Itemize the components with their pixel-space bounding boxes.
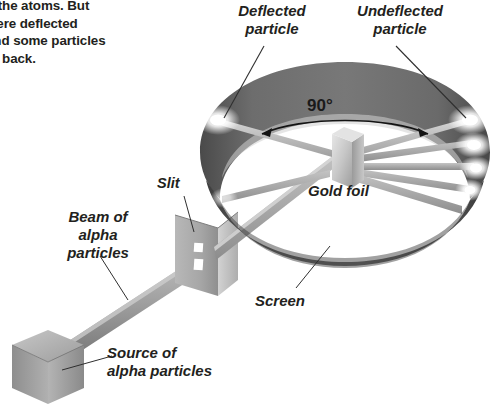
- beam-slit-to-foil: [214, 152, 343, 260]
- body-text: g the atoms. But were deflected and some…: [0, 0, 196, 67]
- label-source-of-alpha-particles: Source of alpha particles: [107, 344, 267, 380]
- label-screen: Screen: [255, 292, 345, 310]
- leader-beam: [100, 256, 128, 300]
- leader-screen: [296, 246, 330, 288]
- label-gold-foil: Gold foil: [308, 182, 408, 200]
- slit-plate: [175, 212, 238, 296]
- figure-canvas: g the atoms. But were deflected and some…: [0, 0, 492, 412]
- label-undeflected-particle: Undeflected particle: [330, 2, 470, 38]
- gold-foil-plate: [332, 127, 364, 188]
- label-beam-of-alpha-particles: Beam of alpha particles: [43, 208, 153, 262]
- label-slit: Slit: [157, 174, 207, 192]
- label-deflected-particle: Deflected particle: [216, 2, 328, 38]
- label-scattering-angle: 90°: [307, 96, 333, 116]
